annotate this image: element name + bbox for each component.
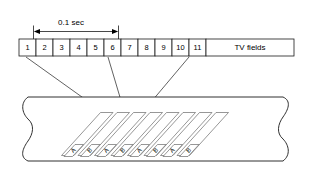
field-number: 11 xyxy=(194,43,202,52)
tv-fields-label: TV fields xyxy=(234,43,265,52)
field-number: 9 xyxy=(161,43,165,52)
field-number: 3 xyxy=(59,43,63,52)
field-number: 4 xyxy=(76,43,80,52)
field-number: 10 xyxy=(176,43,184,52)
dimension-group: 0.1 sec xyxy=(34,18,119,39)
field-number: 5 xyxy=(93,43,97,52)
diagram-root: 0.1 sec 1 2 3 4 xyxy=(0,0,313,176)
field-number: 6 xyxy=(110,43,114,52)
dimension-arrow-right-icon xyxy=(112,29,118,34)
field-number: 8 xyxy=(144,43,148,52)
tv-field-row: 1 2 3 4 5 6 7 8 9 10 11 TV fields xyxy=(19,39,294,56)
field-number: 7 xyxy=(127,43,131,52)
dimension-arrow-left-icon xyxy=(34,29,40,34)
field-number: 1 xyxy=(25,43,29,52)
helical-scan-diagram: 0.1 sec 1 2 3 4 xyxy=(0,0,313,176)
field-number: 2 xyxy=(42,43,46,52)
dimension-label: 0.1 sec xyxy=(58,18,84,27)
